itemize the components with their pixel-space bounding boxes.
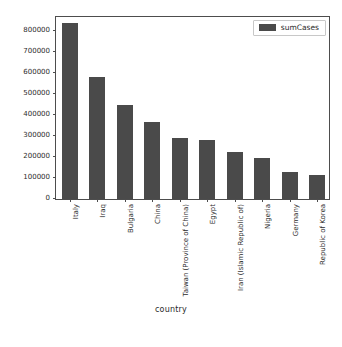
x-tick-mark — [70, 199, 71, 202]
bar — [282, 172, 298, 199]
y-tick-label: 500000 — [23, 90, 50, 97]
chart-legend[interactable]: sumCases — [253, 20, 326, 36]
x-tick-label: Taiwan (Province of China) — [183, 204, 190, 296]
x-tick-label: Egypt — [210, 204, 217, 224]
x-tick-label: Germany — [293, 204, 300, 236]
y-tick-label: 300000 — [23, 132, 50, 139]
bar — [254, 158, 270, 199]
x-axis-title: country — [0, 305, 342, 314]
x-tick-mark — [317, 199, 318, 202]
y-tick-mark — [53, 93, 56, 94]
y-tick-mark — [53, 72, 56, 73]
y-tick-label: 600000 — [23, 69, 50, 76]
y-tick-mark — [53, 156, 56, 157]
chart-figure: 0100000200000300000400000500000600000700… — [0, 0, 342, 347]
bar — [227, 152, 243, 199]
x-tick-mark — [152, 199, 153, 202]
x-tick-mark — [290, 199, 291, 202]
y-tick-label: 100000 — [23, 174, 50, 181]
bar — [144, 122, 160, 199]
legend-label-sumCases: sumCases — [281, 24, 319, 32]
x-tick-label: Nigeria — [265, 204, 272, 229]
bar — [117, 105, 133, 199]
x-tick-mark — [97, 199, 98, 202]
y-axis-tick: 700000 — [56, 51, 331, 52]
y-tick-label: 0 — [46, 195, 50, 202]
bar — [62, 23, 78, 199]
plot-area: 0100000200000300000400000500000600000700… — [55, 16, 330, 200]
x-tick-label: Iraq — [100, 204, 107, 218]
x-tick-label: Republic of Korea — [320, 204, 327, 265]
y-tick-label: 700000 — [23, 48, 50, 55]
y-axis-tick: 600000 — [56, 72, 331, 73]
y-tick-label: 800000 — [23, 27, 50, 34]
x-tick-label: Italy — [73, 204, 80, 219]
y-tick-mark — [53, 51, 56, 52]
y-tick-mark — [53, 135, 56, 136]
y-tick-mark — [53, 198, 56, 199]
y-tick-label: 400000 — [23, 111, 50, 118]
x-tick-mark — [207, 199, 208, 202]
legend-swatch-sumCases — [259, 24, 276, 31]
y-tick-label: 200000 — [23, 153, 50, 160]
x-tick-label: China — [155, 204, 162, 224]
y-tick-mark — [53, 177, 56, 178]
bar — [309, 175, 325, 199]
x-tick-mark — [180, 199, 181, 202]
x-tick-label: Bulgaria — [128, 204, 135, 233]
bar — [172, 138, 188, 199]
bar — [89, 77, 105, 199]
y-tick-mark — [53, 30, 56, 31]
y-tick-mark — [53, 114, 56, 115]
x-tick-mark — [125, 199, 126, 202]
bar — [199, 140, 215, 199]
x-tick-mark — [262, 199, 263, 202]
x-tick-label: Iran (Islamic Republic of) — [238, 204, 245, 291]
x-tick-mark — [235, 199, 236, 202]
